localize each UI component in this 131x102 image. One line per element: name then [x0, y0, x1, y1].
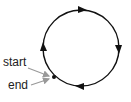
end-pointer	[31, 79, 49, 85]
start-pointer	[28, 68, 49, 76]
cycle-diagram: start end	[0, 0, 131, 102]
arrow-right-icon	[115, 45, 122, 54]
start-label: start	[3, 55, 27, 69]
arrow-bottom-icon	[75, 83, 84, 90]
end-label: end	[8, 78, 28, 92]
loop-circle	[43, 10, 119, 86]
start-end-point	[52, 75, 56, 79]
arrow-left-icon	[40, 42, 47, 51]
arrow-top-icon	[78, 6, 87, 13]
